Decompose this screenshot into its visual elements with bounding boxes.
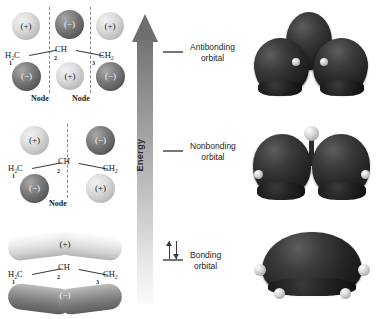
lobe-sign: (−) (21, 72, 32, 81)
chain-label-c2: CH (55, 44, 67, 54)
hydrogen-sphere (274, 288, 285, 299)
bonding-lobe-top: (+) (6, 226, 124, 262)
hydrogen-sphere (304, 126, 319, 141)
nonbonding-orbital-diagram: (+) (−) H₂C CH CH₂ 1 2 3 (−) (+) Node (0, 108, 130, 213)
render-lobe-right-under (318, 182, 366, 200)
label-line-1: Antibonding (190, 42, 235, 53)
label-line-2: orbital (190, 53, 235, 64)
arrow-shaft (137, 40, 153, 304)
hydrogen-sphere (254, 264, 266, 276)
electron-spin-up-arrow (169, 241, 170, 259)
lobe-sign: (+) (104, 22, 115, 31)
nonbonding-orbital-render (252, 114, 374, 212)
lobe-sign: (−) (64, 20, 75, 29)
label-bonding-orbital: Bonding orbital (190, 250, 221, 272)
nonbonding-lobe-c3-bottom: (+) (86, 174, 115, 203)
hydrogen-sphere (320, 58, 328, 66)
chain-label-c1: H₂C (5, 50, 20, 60)
hydrogen-sphere (340, 288, 351, 299)
node-label-1: Node (49, 199, 67, 208)
figure-root: (+) (−) (+) H₂C CH CH₂ 1 2 3 (−) (+) (−)… (0, 0, 377, 319)
carbon-number-2: 2 (57, 168, 60, 174)
hydrogen-sphere (361, 170, 370, 179)
nonbonding-lobe-c3-top: (−) (86, 126, 115, 155)
node-label-1: Node (31, 94, 49, 103)
chain-label-c1: H₂C (8, 163, 23, 173)
lobe-sign: (+) (29, 136, 40, 145)
nonbonding-lobe-c1-top: (+) (20, 126, 49, 155)
label-line-2: orbital (190, 152, 236, 163)
lobe-sign: (+) (20, 22, 31, 31)
node-label-2: Node (72, 94, 90, 103)
electron-spin-down-arrow (176, 241, 177, 259)
lobe-sign: (+) (59, 239, 70, 249)
label-line-1: Nonbonding (190, 141, 236, 152)
label-nonbonding-orbital: Nonbonding orbital (190, 141, 236, 163)
antibonding-lobe-c2-top: (−) (55, 10, 84, 39)
energy-level-bonding (163, 259, 183, 261)
bonding-lobe-bottom: (−) (6, 276, 124, 314)
arrow-head-icon (132, 14, 158, 42)
antibonding-lobe-c3-top: (+) (96, 12, 124, 40)
chain-label-c2: CH (58, 262, 70, 272)
label-line-2: orbital (190, 261, 221, 272)
hydrogen-sphere (254, 170, 263, 179)
antibonding-orbital-diagram: (+) (−) (+) H₂C CH CH₂ 1 2 3 (−) (+) (−)… (0, 0, 130, 110)
lobe-sign: (+) (64, 72, 75, 81)
energy-level-antibonding (163, 51, 183, 53)
energy-axis-label: Energy (135, 139, 145, 172)
chain-label-c2: CH (58, 156, 70, 166)
label-antibonding-orbital: Antibonding orbital (190, 42, 235, 64)
lobe-sign: (−) (59, 290, 70, 300)
hydrogen-sphere (292, 58, 300, 66)
energy-level-nonbonding (163, 150, 183, 152)
antibonding-lobe-c2-bottom: (+) (56, 62, 84, 90)
antibonding-orbital-render (252, 8, 374, 106)
carbon-number-1: 1 (12, 173, 15, 179)
lobe-sign: (−) (105, 72, 116, 81)
hydrogen-sphere (358, 264, 370, 276)
carbon-number-3: 3 (92, 60, 95, 66)
lobe-sign: (−) (95, 136, 106, 145)
antibonding-lobe-c3-bottom: (−) (96, 62, 125, 91)
bonding-orbital-diagram: (+) H₂C CH CH₂ 1 2 3 (−) (0, 216, 130, 319)
lobe-sign: (−) (29, 184, 40, 193)
antibonding-lobe-c1-bottom: (−) (12, 62, 41, 91)
antibonding-lobe-c1-top: (+) (12, 12, 40, 40)
chain-label-c3: CH₂ (99, 50, 114, 60)
carbon-number-1: 1 (9, 60, 12, 66)
render-lobe-left-under (258, 80, 302, 96)
nonbonding-lobe-c1-bottom: (−) (20, 174, 49, 203)
render-lobe-right-under (320, 80, 364, 96)
render-lobe-left-under (257, 182, 305, 200)
carbon-number-2: 2 (54, 55, 57, 61)
bonding-orbital-render (252, 220, 374, 316)
bond-c1-c2 (29, 50, 57, 56)
chain-label-c3: CH₂ (103, 163, 118, 173)
node-line-2 (90, 7, 91, 93)
lobe-sign: (+) (95, 184, 106, 193)
label-line-1: Bonding (190, 250, 221, 261)
